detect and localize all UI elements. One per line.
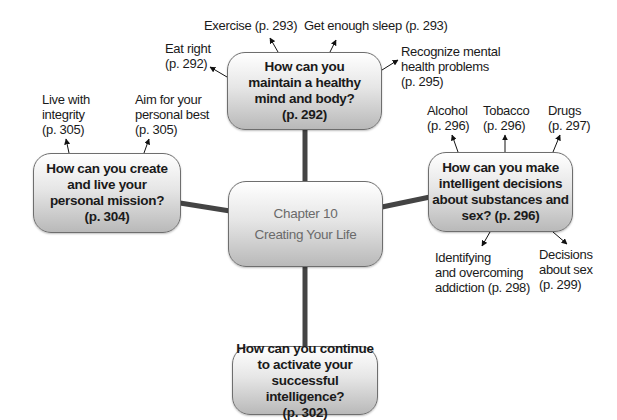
leaf-aim-for-best: Aim for your personal best (p. 305) — [135, 92, 209, 137]
node-healthy-mind-body: How can you maintain a healthy mind and … — [227, 52, 382, 130]
node-successful-intelligence: How can you continue to activate your su… — [232, 346, 378, 415]
node-label: How can you create and live your persona… — [46, 161, 167, 225]
leaf-mental-health: Recognize mental health problems (p. 295… — [401, 44, 500, 89]
leaf-decisions-about-sex: Decisions about sex (p. 299) — [539, 247, 593, 292]
leaf-drugs: Drugs (p. 297) — [548, 103, 590, 133]
node-label: How can you maintain a healthy mind and … — [248, 59, 360, 123]
node-label: How can you continue to activate your su… — [233, 341, 377, 420]
leaf-alcohol: Alcohol (p. 296) — [427, 103, 469, 133]
leaf-tobacco: Tobacco (p. 296) — [483, 103, 529, 133]
leaf-exercise: Exercise (p. 293) — [204, 18, 297, 33]
chapter-title: Creating Your Life — [255, 224, 357, 245]
leaf-addiction: Identifying and overcoming addiction (p.… — [435, 250, 530, 295]
node-substances-sex: How can you make intelligent decisions a… — [428, 152, 573, 232]
center-node-chapter: Chapter 10 Creating Your Life — [228, 181, 383, 267]
node-personal-mission: How can you create and live your persona… — [33, 153, 181, 233]
node-label: How can you make intelligent decisions a… — [432, 160, 569, 224]
leaf-eat-right: Eat right (p. 292) — [165, 41, 211, 71]
chapter-number: Chapter 10 — [255, 203, 357, 224]
leaf-get-enough-sleep: Get enough sleep (p. 293) — [304, 18, 448, 33]
leaf-live-with-integrity: Live with integrity (p. 305) — [42, 92, 90, 137]
